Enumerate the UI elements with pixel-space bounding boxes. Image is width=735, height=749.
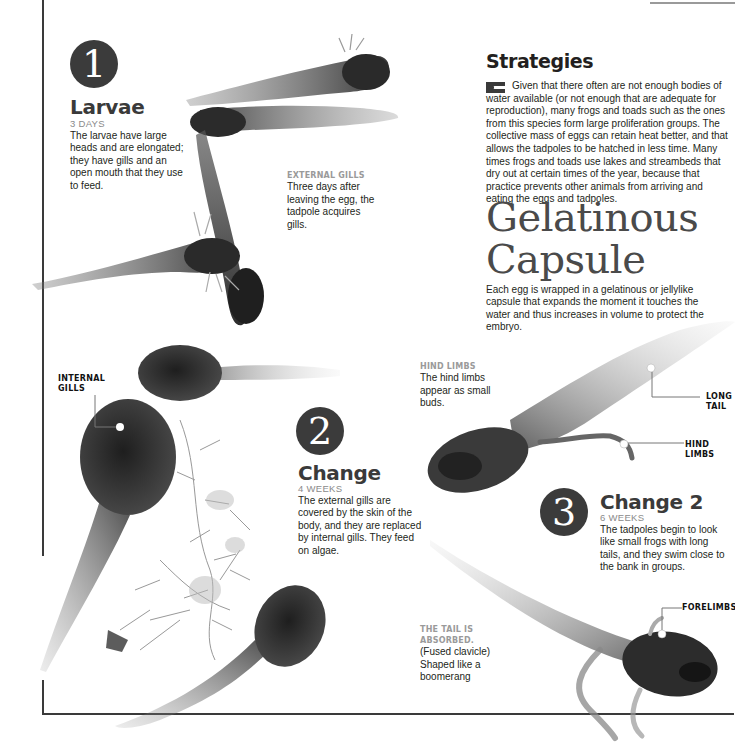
hind-limbs-annotation-body: The hind limbs appear as small buds. — [420, 372, 500, 410]
tail-absorbed-annotation: THE TAIL IS ABSORBED. (Fused clavicle) S… — [420, 624, 500, 684]
hind-limbs-leader-line — [618, 438, 688, 450]
tail-absorbed-body: (Fused clavicle) Shaped like a boomerang — [420, 646, 500, 684]
hind-limbs-callout: HIND LIMBS — [685, 440, 725, 460]
stage-2-description: The external gills are covered by the sk… — [298, 495, 423, 557]
strategies-body: Given that there often are not enough bo… — [486, 80, 731, 206]
stage-3-duration: 6 WEEKS — [600, 512, 644, 523]
hind-limbs-annotation-title: HIND LIMBS — [420, 361, 500, 372]
stage-2-number-circle: 2 — [296, 407, 344, 455]
hind-limbs-annotation: HIND LIMBS The hind limbs appear as smal… — [420, 361, 500, 410]
external-gills-body: Three days after leaving the egg, the ta… — [287, 181, 377, 231]
stage-2-duration: 4 WEEKS — [298, 483, 342, 494]
external-gills-title: EXTERNAL GILLS — [287, 170, 377, 181]
internal-gills-callout: INTERNAL GILLS — [58, 374, 118, 394]
stage-1-title: Larvae — [70, 97, 144, 117]
stage-3-title: Change 2 — [600, 492, 703, 512]
forelimbs-callout: FORELIMBS — [682, 603, 735, 613]
internal-gills-leader-line — [90, 395, 130, 435]
stage-3-description: The tadpoles begin to look like small fr… — [600, 524, 725, 574]
long-tail-callout: LONG TAIL — [706, 392, 735, 412]
tail-absorbed-title: THE TAIL IS ABSORBED. — [420, 624, 500, 646]
capsule-body: Each egg is wrapped in a gelatinous or j… — [486, 284, 716, 333]
frame-line-top-right — [650, 2, 735, 4]
stage-1-duration: 3 DAYS — [70, 118, 105, 129]
change-photo — [0, 330, 340, 749]
strategies-title: Strategies — [486, 50, 593, 72]
capsule-title: Gelatinous Capsule — [486, 196, 735, 280]
long-tail-leader-line — [645, 362, 705, 402]
stage-2-title: Change — [298, 463, 381, 483]
stage-1-number-circle: 1 — [70, 40, 118, 88]
stage-1-description: The larvae have large heads and are elon… — [70, 130, 190, 192]
external-gills-annotation: EXTERNAL GILLS Three days after leaving … — [287, 170, 377, 231]
stage-3-number-circle: 3 — [540, 488, 588, 536]
